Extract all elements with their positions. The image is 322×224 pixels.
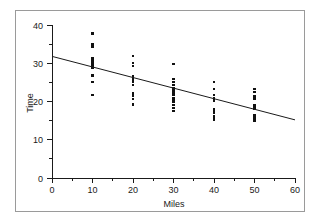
x-tick-label: 20: [128, 185, 138, 195]
data-point: [132, 84, 134, 86]
data-point: [253, 120, 255, 122]
x-tick-label: 30: [168, 185, 178, 195]
x-tick-label: 50: [249, 185, 259, 195]
y-tick-label: 30: [33, 59, 43, 69]
data-point: [132, 98, 134, 100]
y-axis-title: Time: [25, 93, 35, 113]
data-point: [172, 84, 174, 86]
figure-root: 0102030405060010203040 Miles Time: [0, 0, 322, 224]
data-point: [213, 110, 215, 112]
data-point: [132, 62, 134, 64]
tick-labels-group: 0102030405060010203040: [33, 21, 300, 196]
data-point: [213, 112, 215, 114]
data-point: [91, 57, 93, 59]
data-point: [172, 78, 174, 80]
x-tick-label: 10: [87, 185, 97, 195]
y-tick-label: 0: [38, 174, 43, 184]
data-point: [253, 95, 255, 97]
data-point: [253, 97, 255, 99]
data-point: [132, 79, 134, 81]
data-point: [172, 97, 174, 99]
data-point: [213, 100, 215, 102]
data-point: [253, 116, 255, 118]
data-point: [91, 74, 93, 76]
data-point: [213, 115, 215, 117]
data-point: [253, 106, 255, 108]
ticks-group: [47, 25, 295, 183]
data-point: [213, 94, 215, 96]
data-point: [132, 81, 134, 83]
data-point: [172, 63, 174, 65]
data-point: [132, 103, 134, 105]
data-points-group: [91, 32, 255, 122]
scatter-plot: 0102030405060010203040 Miles Time: [0, 0, 322, 224]
data-point: [253, 114, 255, 116]
data-point: [172, 94, 174, 96]
data-point: [91, 46, 93, 48]
y-tick-label: 10: [33, 135, 43, 145]
x-tick-label: 0: [49, 185, 54, 195]
data-point: [91, 32, 93, 34]
data-point: [213, 119, 215, 121]
data-point: [172, 81, 174, 83]
data-point: [172, 101, 174, 103]
data-point: [132, 92, 134, 94]
data-point: [132, 95, 134, 97]
data-point: [172, 110, 174, 112]
data-point: [91, 94, 93, 96]
x-tick-label: 40: [209, 185, 219, 195]
data-point: [91, 62, 93, 64]
data-point: [172, 92, 174, 94]
data-point: [91, 59, 93, 61]
data-point: [213, 108, 215, 110]
data-point: [172, 107, 174, 109]
data-point: [213, 81, 215, 83]
data-point: [132, 65, 134, 67]
x-tick-label: 60: [290, 185, 300, 195]
x-axis-title: Miles: [163, 199, 185, 209]
data-point: [132, 55, 134, 57]
data-point: [253, 91, 255, 93]
data-point: [172, 104, 174, 106]
data-point: [253, 88, 255, 90]
data-point: [213, 116, 215, 118]
data-point: [172, 99, 174, 101]
data-point: [172, 90, 174, 92]
data-point: [213, 88, 215, 90]
y-tick-label: 40: [33, 21, 43, 31]
data-point: [91, 81, 93, 83]
data-point: [91, 43, 93, 45]
